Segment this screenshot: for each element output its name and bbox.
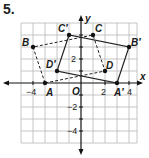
label-b-prime: B′	[131, 37, 141, 48]
point-a	[43, 81, 47, 85]
label-d-prime: D′	[46, 59, 56, 70]
x-tick-label: 2	[101, 87, 106, 97]
label-c-prime: C′	[58, 23, 68, 34]
y-axis-arrow-up-icon	[79, 15, 84, 21]
y-tick-label: −2	[67, 102, 77, 112]
label-b: B	[22, 37, 29, 48]
label-d: D	[106, 60, 113, 71]
y-axis-label: y	[84, 13, 91, 24]
label-a-prime: A′	[113, 87, 124, 98]
x-axis-arrow-left-icon	[3, 81, 9, 86]
origin-label: O	[72, 86, 80, 97]
label-a: A	[45, 87, 53, 98]
x-tick-label: −4	[26, 87, 36, 97]
x-axis-label: x	[139, 71, 146, 82]
y-tick-label: −4	[67, 126, 77, 136]
y-tick-label: 2	[71, 54, 76, 64]
y-axis-arrow-down-icon	[79, 149, 84, 155]
point-a-prime	[115, 81, 119, 85]
x-tick-label: 4	[127, 87, 132, 97]
point-b	[31, 45, 35, 49]
label-c: C	[95, 23, 103, 34]
coordinate-plane: A B C D A′ B′ C′ D′ y x O −4 2 4 2 −2 −4	[0, 0, 149, 158]
